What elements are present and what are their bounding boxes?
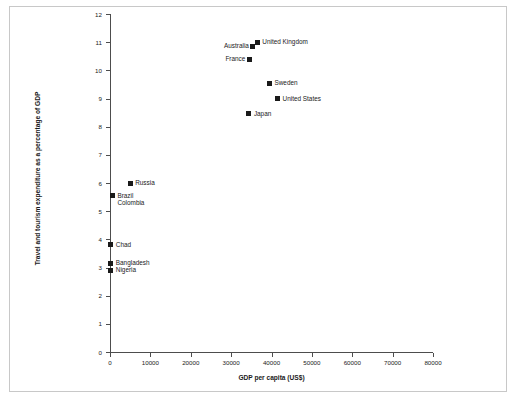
y-tick-label: 10 (80, 67, 102, 74)
x-tick-mark (312, 353, 313, 357)
data-point-label: Nigeria (116, 266, 136, 274)
y-tick-label: 0 (80, 349, 102, 356)
y-tick-label: 9 (80, 95, 102, 102)
data-point-marker[interactable] (275, 96, 280, 101)
y-tick-label: 12 (80, 11, 102, 18)
x-tick-mark (110, 353, 111, 357)
data-point-label: Sweden (274, 79, 297, 87)
data-point-marker[interactable] (267, 81, 272, 86)
y-axis-line (110, 14, 111, 353)
data-point-marker[interactable] (108, 261, 113, 266)
x-tick-label: 10000 (130, 359, 170, 366)
data-point-label: Australia (149, 42, 249, 50)
data-point-label: Russia (135, 179, 155, 187)
y-tick-mark (106, 239, 110, 240)
x-tick-label: 20000 (171, 359, 211, 366)
data-point-label: Brazil (117, 192, 133, 200)
y-tick-mark (106, 70, 110, 71)
data-point-marker[interactable] (110, 193, 115, 198)
data-point-marker[interactable] (108, 242, 113, 247)
scatter-plot: 0123456789101112 01000020000300004000050… (0, 0, 517, 400)
y-tick-mark (106, 324, 110, 325)
y-tick-label: 3 (80, 264, 102, 271)
data-point-marker[interactable] (250, 44, 255, 49)
y-axis-title: Travel and tourism expenditure as a perc… (34, 54, 41, 304)
y-tick-label: 1 (80, 320, 102, 327)
x-tick-label: 0 (90, 359, 130, 366)
x-tick-label: 70000 (373, 359, 413, 366)
x-axis-title: GDP per capita (US$) (110, 374, 433, 381)
y-tick-mark (106, 127, 110, 128)
x-tick-mark (433, 353, 434, 357)
y-tick-mark (106, 99, 110, 100)
data-point-marker[interactable] (246, 111, 251, 116)
y-tick-label: 4 (80, 236, 102, 243)
y-tick-label: 11 (80, 39, 102, 46)
x-tick-mark (150, 353, 151, 357)
data-point-marker[interactable] (255, 40, 260, 45)
x-tick-label: 60000 (332, 359, 372, 366)
x-tick-label: 80000 (413, 359, 453, 366)
data-point-label: Colombia (117, 199, 144, 207)
x-tick-mark (272, 353, 273, 357)
data-point-marker[interactable] (108, 268, 113, 273)
x-tick-label: 50000 (292, 359, 332, 366)
y-tick-mark (106, 42, 110, 43)
data-point-label: United Kingdom (262, 38, 307, 46)
y-tick-mark (106, 183, 110, 184)
y-tick-mark (106, 14, 110, 15)
x-tick-mark (231, 353, 232, 357)
data-point-label: France (145, 55, 245, 63)
y-tick-mark (106, 211, 110, 212)
x-tick-mark (393, 353, 394, 357)
x-tick-label: 40000 (252, 359, 292, 366)
x-tick-mark (191, 353, 192, 357)
y-tick-mark (106, 296, 110, 297)
y-tick-label: 8 (80, 123, 102, 130)
y-tick-mark (106, 155, 110, 156)
y-tick-label: 2 (80, 292, 102, 299)
x-tick-mark (352, 353, 353, 357)
y-tick-label: 7 (80, 151, 102, 158)
data-point-label: Japan (254, 110, 271, 118)
y-tick-label: 5 (80, 208, 102, 215)
data-point-marker[interactable] (128, 181, 133, 186)
data-point-marker[interactable] (247, 57, 252, 62)
x-tick-label: 30000 (211, 359, 251, 366)
data-point-label: Chad (116, 241, 131, 249)
data-point-label: United States (283, 95, 321, 103)
y-tick-label: 6 (80, 180, 102, 187)
